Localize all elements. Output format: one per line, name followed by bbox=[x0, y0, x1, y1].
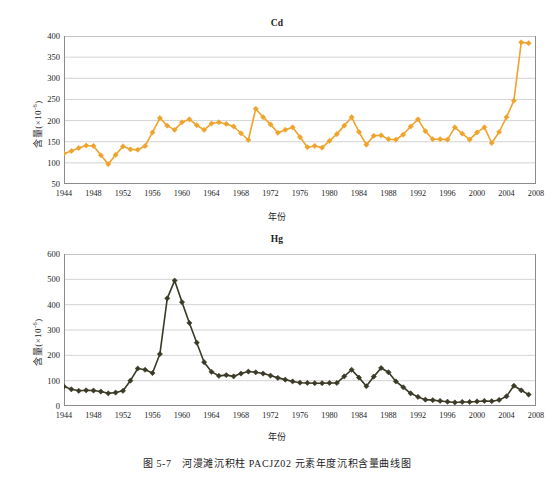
x-axis-tick-label: 1984 bbox=[351, 411, 367, 420]
y-axis-tick-label: 200 bbox=[47, 116, 60, 126]
data-point-marker bbox=[526, 41, 531, 46]
y-axis-tick-label: 400 bbox=[47, 31, 60, 41]
data-point-marker bbox=[224, 121, 229, 126]
x-axis-tick-label: 1964 bbox=[203, 411, 219, 420]
data-line-hg bbox=[64, 281, 529, 403]
data-point-marker bbox=[84, 143, 89, 148]
x-axis-tick-label: 1996 bbox=[439, 189, 455, 198]
data-point-marker bbox=[113, 390, 118, 395]
y-axis-label-hg-tail: ) bbox=[33, 318, 43, 321]
x-axis-tick-label: 1960 bbox=[174, 411, 190, 420]
x-axis-tick-label: 1976 bbox=[292, 189, 308, 198]
x-axis-tick-label: 2000 bbox=[469, 411, 485, 420]
data-point-marker bbox=[275, 375, 280, 380]
y-axis-tick-label: 200 bbox=[47, 350, 60, 360]
data-point-marker bbox=[430, 398, 435, 403]
y-axis-tick-label: 0 bbox=[56, 401, 60, 411]
x-axis-tick-label: 2000 bbox=[469, 189, 485, 198]
x-axis-tick-label: 1952 bbox=[115, 189, 131, 198]
y-axis-tick-label: 300 bbox=[47, 73, 60, 83]
data-point-marker bbox=[238, 371, 243, 376]
chart-panel-cd: Cd 含量(×10-6) 501001502002503003504001944… bbox=[0, 18, 554, 230]
data-point-marker bbox=[312, 143, 317, 148]
data-point-marker bbox=[283, 127, 288, 132]
x-axis-tick-label: 2008 bbox=[528, 411, 544, 420]
data-point-marker bbox=[305, 380, 310, 385]
data-point-marker bbox=[327, 380, 332, 385]
data-point-marker bbox=[511, 98, 516, 103]
y-axis-label-cd-tail: ) bbox=[33, 100, 43, 103]
y-axis-tick-label: 150 bbox=[47, 137, 60, 147]
figure-caption: 图 5-7 河漫滩沉积柱 PACJZ02 元素年度沉积含量曲线图 bbox=[0, 455, 554, 470]
data-point-marker bbox=[460, 399, 465, 404]
data-point-marker bbox=[143, 367, 148, 372]
data-point-marker bbox=[64, 384, 67, 389]
y-axis-tick-label: 350 bbox=[47, 52, 60, 62]
data-point-marker bbox=[519, 40, 524, 45]
data-point-marker bbox=[320, 381, 325, 386]
data-point-marker bbox=[312, 381, 317, 386]
x-axis-label-hg: 年份 bbox=[0, 430, 554, 443]
x-axis-tick-label: 1992 bbox=[410, 189, 426, 198]
x-axis-tick-label: 1956 bbox=[144, 411, 160, 420]
y-axis-tick-label: 500 bbox=[47, 274, 60, 284]
x-axis-tick-label: 1976 bbox=[292, 411, 308, 420]
data-point-marker bbox=[497, 397, 502, 402]
data-point-marker bbox=[157, 351, 162, 356]
x-axis-tick-label: 1960 bbox=[174, 189, 190, 198]
data-point-marker bbox=[445, 399, 450, 404]
data-point-marker bbox=[165, 296, 170, 301]
data-point-marker bbox=[224, 372, 229, 377]
data-point-marker bbox=[253, 370, 258, 375]
data-point-marker bbox=[150, 370, 155, 375]
x-axis-tick-label: 1944 bbox=[56, 411, 72, 420]
chart-panel-hg: Hg 含量(×10-6) 010020030040050060019441948… bbox=[0, 234, 554, 450]
chart-title-hg: Hg bbox=[0, 234, 554, 244]
x-axis-tick-label: 1964 bbox=[203, 189, 219, 198]
x-axis-tick-label: 2004 bbox=[498, 411, 514, 420]
y-axis-label-cd-base: 含量(×10 bbox=[33, 110, 43, 147]
data-point-marker bbox=[128, 147, 133, 152]
x-axis-tick-label: 1948 bbox=[85, 189, 101, 198]
chart-svg-cd bbox=[64, 36, 536, 184]
data-point-marker bbox=[84, 388, 89, 393]
data-point-marker bbox=[69, 387, 74, 392]
x-axis-tick-label: 1988 bbox=[380, 411, 396, 420]
y-axis-label-hg-base: 含量(×10 bbox=[33, 328, 43, 365]
data-point-marker bbox=[415, 394, 420, 399]
data-point-marker bbox=[69, 148, 74, 153]
y-axis-label-cd-exponent: -6 bbox=[31, 104, 38, 110]
plot-area-hg: 0100200300400500600194419481952195619601… bbox=[64, 254, 536, 406]
y-axis-tick-label: 100 bbox=[47, 376, 60, 386]
y-axis-label-cd: 含量(×10-6) bbox=[31, 100, 44, 147]
data-point-marker bbox=[423, 397, 428, 402]
x-axis-tick-label: 1980 bbox=[321, 189, 337, 198]
data-point-marker bbox=[231, 374, 236, 379]
data-point-marker bbox=[283, 377, 288, 382]
data-point-marker bbox=[474, 399, 479, 404]
data-point-marker bbox=[194, 340, 199, 345]
y-axis-tick-label: 50 bbox=[52, 179, 61, 189]
x-axis-tick-label: 1968 bbox=[233, 189, 249, 198]
x-axis-tick-label: 1956 bbox=[144, 189, 160, 198]
x-axis-tick-label: 1968 bbox=[233, 411, 249, 420]
data-point-marker bbox=[187, 320, 192, 325]
y-axis-tick-label: 400 bbox=[47, 300, 60, 310]
data-point-marker bbox=[76, 388, 81, 393]
x-axis-tick-label: 1980 bbox=[321, 411, 337, 420]
data-point-marker bbox=[290, 379, 295, 384]
y-axis-label-hg-exponent: -6 bbox=[31, 322, 38, 328]
data-point-marker bbox=[504, 115, 509, 120]
x-axis-tick-label: 1972 bbox=[262, 411, 278, 420]
data-point-marker bbox=[452, 400, 457, 405]
y-axis-tick-label: 600 bbox=[47, 249, 60, 259]
data-point-marker bbox=[91, 388, 96, 393]
x-axis-tick-label: 1996 bbox=[439, 411, 455, 420]
data-point-marker bbox=[179, 300, 184, 305]
x-axis-tick-label: 1972 bbox=[262, 189, 278, 198]
x-axis-tick-label: 1944 bbox=[56, 189, 72, 198]
data-point-marker bbox=[489, 399, 494, 404]
x-axis-tick-label: 2008 bbox=[528, 189, 544, 198]
x-axis-tick-label: 1952 bbox=[115, 411, 131, 420]
data-point-marker bbox=[467, 399, 472, 404]
